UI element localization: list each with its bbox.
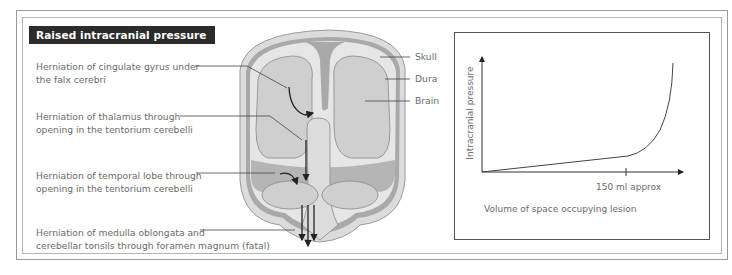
pressure-chart-plot (0, 0, 732, 275)
x-tick-label: 150 ml approx (596, 182, 661, 192)
pressure-curve (482, 63, 673, 172)
y-axis-title: Intracranial pressure (465, 43, 475, 183)
x-axis-title: Volume of space occupying lesion (484, 204, 637, 214)
